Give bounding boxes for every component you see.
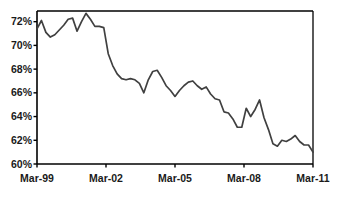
line-chart: 72%70%68%66%64%62%60% Mar-99Mar-02Mar-05… bbox=[0, 0, 340, 197]
y-tick-label: 68% bbox=[11, 64, 32, 75]
x-tick-label: Mar-05 bbox=[145, 173, 205, 184]
y-tick-label: 70% bbox=[11, 40, 32, 51]
y-tick-label: 66% bbox=[11, 87, 32, 98]
y-tick-label: 64% bbox=[11, 111, 32, 122]
chart-plot-area bbox=[0, 0, 340, 197]
y-tick-label: 62% bbox=[11, 135, 32, 146]
x-tick-label: Mar-08 bbox=[214, 173, 274, 184]
x-tick-label: Mar-99 bbox=[7, 173, 67, 184]
data-series-line bbox=[37, 13, 313, 152]
y-tick-label: 60% bbox=[11, 159, 32, 170]
x-tick-label: Mar-11 bbox=[283, 173, 340, 184]
x-tick-label: Mar-02 bbox=[76, 173, 136, 184]
y-tick-label: 72% bbox=[11, 16, 32, 27]
